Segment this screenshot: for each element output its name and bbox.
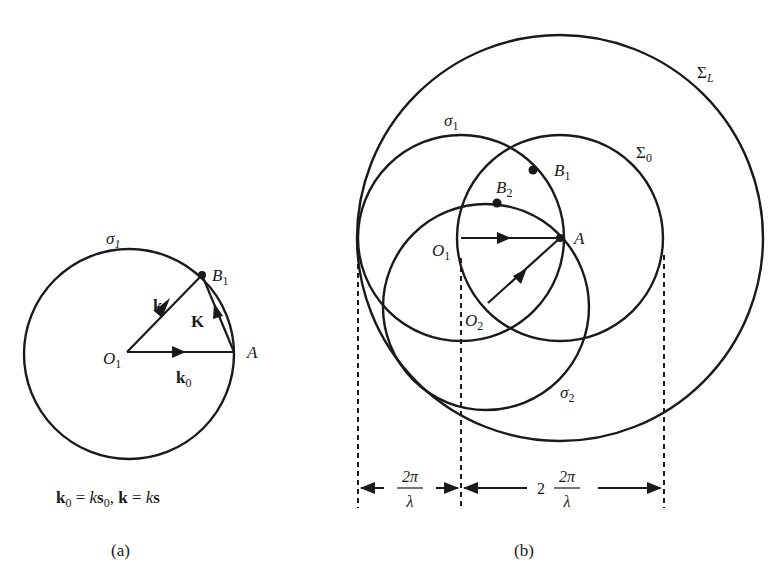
label-O1-a: O1 bbox=[103, 349, 121, 371]
dim-right-coefficient: 2 bbox=[537, 480, 545, 497]
label-O2-b: O2 bbox=[465, 311, 483, 333]
label-sigma0: Σ0 bbox=[636, 143, 652, 165]
label-A-a: A bbox=[246, 343, 258, 362]
label-k: k bbox=[153, 296, 163, 315]
label-A-b: A bbox=[573, 229, 585, 248]
point-B1-a bbox=[198, 271, 206, 279]
label-B2-b: B2 bbox=[496, 178, 512, 200]
arrowhead-O2-A bbox=[513, 268, 527, 284]
arrowhead-k0 bbox=[172, 346, 186, 358]
label-B1-a: B1 bbox=[212, 266, 228, 288]
dim-left-numerator: 2π bbox=[402, 468, 419, 485]
dim-right-denominator: λ bbox=[563, 493, 571, 510]
dim-right-numerator: 2π bbox=[559, 468, 576, 485]
point-B2-b bbox=[493, 199, 502, 208]
label-O1-b: O1 bbox=[432, 241, 450, 263]
label-sigma1-a: σ1 bbox=[106, 229, 120, 251]
label-sigma2: σ2 bbox=[560, 383, 574, 405]
arrowhead-O1-A bbox=[497, 232, 511, 244]
label-B1-b: B1 bbox=[554, 161, 570, 183]
figure-a: σ1 B1 A O1 k K k0 k0 = ks0, k = ks (a) bbox=[24, 229, 258, 560]
dimension-right: 2 2π λ bbox=[463, 468, 662, 510]
label-K: K bbox=[191, 312, 205, 331]
point-B1-b bbox=[529, 166, 538, 175]
circle-sigma1-a bbox=[24, 249, 234, 459]
caption-a: (a) bbox=[111, 541, 130, 560]
point-A-b bbox=[556, 234, 564, 242]
equation-a: k0 = ks0, k = ks bbox=[56, 488, 160, 510]
label-sigma1-b: σ1 bbox=[444, 111, 458, 133]
label-sigma-L: ΣL bbox=[697, 63, 714, 85]
caption-b: (b) bbox=[514, 541, 534, 560]
figure-b: ΣL σ1 Σ0 σ2 B1 B2 A O1 O2 2π λ 2 2π λ bbox=[357, 35, 763, 560]
dim-left-denominator: λ bbox=[406, 493, 414, 510]
diagram-canvas: σ1 B1 A O1 k K k0 k0 = ks0, k = ks (a) Σ… bbox=[0, 0, 784, 584]
label-k0: k0 bbox=[176, 368, 191, 390]
dimension-left: 2π λ bbox=[360, 468, 459, 510]
